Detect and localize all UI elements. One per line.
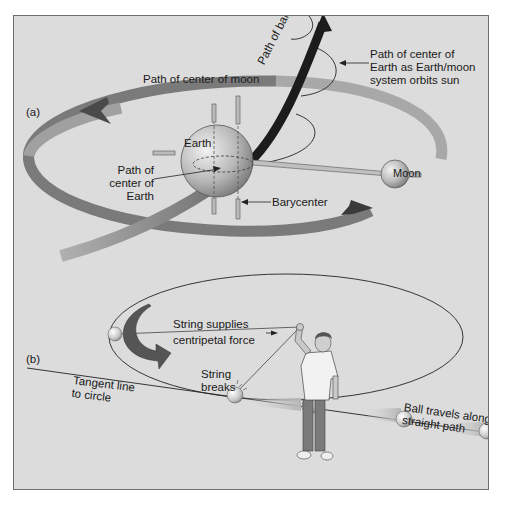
ball-on-circle [108,327,122,341]
string-breaks-line1: String [201,368,236,381]
sun-orbit-label-line3: system orbits sun [370,74,475,87]
barycenter-path-arrow [315,16,332,33]
string-breaks-line2: breaks [201,381,236,394]
centripetal-force-label: centripetal force [173,334,255,347]
diagram-frame: (a) Path of center of moon Earth Moon Pa… [13,15,489,490]
string-supplies-label: String supplies [173,318,248,331]
curved-force-arrow [123,304,171,369]
earth-path-label-line2: center of [96,177,154,190]
panel-a-label: (a) [26,106,40,119]
earth-path-label-line3: Earth [96,190,154,203]
string-breaks-label: String breaks [201,368,236,394]
boy-figure [295,324,338,461]
sun-orbit-label-line2: Earth as Earth/moon [370,61,475,74]
sun-orbit-label-line1: Path of center of [370,48,475,61]
earth-path-label: Path of center of Earth [96,164,154,203]
moon-path-label: Path of center of moon [143,73,259,86]
moon-label: Moon [393,167,421,180]
earth-label: Earth [184,137,212,150]
circular-path [109,274,463,400]
sun-orbit-label: Path of center of Earth as Earth/moon sy… [370,48,475,87]
earth-path-label-line1: Path of [96,164,154,177]
panel-b-label: (b) [26,353,40,366]
barycenter-label: Barycenter [272,196,328,209]
